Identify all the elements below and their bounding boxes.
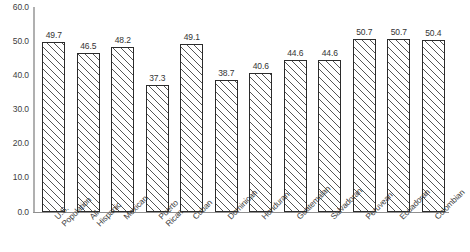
bar-value-label: 46.5 <box>71 42 106 51</box>
bar-value-label: 37.3 <box>140 74 175 83</box>
y-axis: 60.050.040.030.020.010.00.0 <box>0 0 33 252</box>
bar-value-label: 49.7 <box>36 31 71 40</box>
bar-value-label: 38.7 <box>209 69 244 78</box>
y-axis-tick-label: 40.0 <box>13 71 29 80</box>
y-axis-tick-label: 50.0 <box>13 37 29 46</box>
bar-value-label: 48.2 <box>105 36 140 45</box>
x-axis-tick: PuertoRican <box>146 215 169 216</box>
bar-value-label: 44.6 <box>312 49 347 58</box>
y-axis-tick-label: 60.0 <box>13 3 29 12</box>
x-axis-tick: Cuban <box>180 215 203 216</box>
bar-group: 49.7 <box>42 7 65 212</box>
y-axis-tick-label: 10.0 <box>13 173 29 182</box>
y-axis-tick-label: 20.0 <box>13 139 29 148</box>
bar-value-label: 44.6 <box>278 49 313 58</box>
x-axis-tick: Dominican <box>215 215 238 216</box>
bar-value-label: 50.4 <box>416 29 451 38</box>
x-axis-tick: Ecuadoran <box>387 215 410 216</box>
x-axis-tick: Salvadoran <box>318 215 341 216</box>
bar-value-label: 40.6 <box>243 62 278 71</box>
x-axis-tick: Colombian <box>422 215 445 216</box>
bar[interactable] <box>42 42 65 212</box>
y-axis-tick-label: 30.0 <box>13 105 29 114</box>
bar-value-label: 50.7 <box>347 28 382 37</box>
bar-value-label: 49.1 <box>174 33 209 42</box>
x-axis-tick: AllHispanic <box>77 215 100 216</box>
x-axis-tick: Mexican <box>111 215 134 216</box>
x-axis-tick: U.S.Population <box>42 215 65 216</box>
x-axis: U.S.PopulationAllHispanicMexicanPuertoRi… <box>35 213 449 252</box>
x-axis-tick: Peruvean <box>353 215 376 216</box>
x-axis-tick: Honduran <box>249 215 272 216</box>
bar-value-label: 50.7 <box>381 28 416 37</box>
x-axis-tick: Guatemalan <box>284 215 307 216</box>
y-axis-tick-label: 0.0 <box>17 208 29 217</box>
